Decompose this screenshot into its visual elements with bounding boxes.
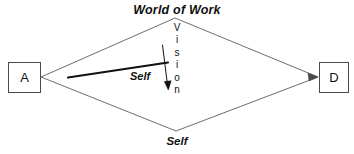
arrowhead-to-d-icon [308, 73, 318, 81]
vision-letter: i [170, 59, 184, 71]
node-box-a[interactable]: A [8, 62, 41, 93]
vision-letter: i [170, 34, 184, 46]
label-self-bottom: Self [0, 136, 354, 148]
node-box-d[interactable]: D [319, 62, 349, 93]
label-world-of-work: World of Work [0, 4, 354, 17]
vision-letter: o [170, 72, 184, 84]
diagram-canvas: A D World of Work Self Self V i s i o n [0, 0, 354, 154]
label-vision-vertical: V i s i o n [170, 22, 184, 96]
vision-letter: n [170, 84, 184, 96]
vision-letter: V [170, 22, 184, 34]
self-trajectory-line [68, 63, 168, 78]
vision-axis-line [163, 45, 168, 85]
node-box-d-label: D [329, 71, 338, 84]
node-box-a-label: A [20, 71, 29, 84]
vision-letter: s [170, 47, 184, 59]
label-self-center: Self [130, 71, 150, 82]
